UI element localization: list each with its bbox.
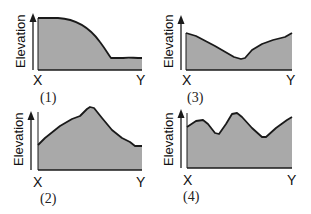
elevation-label-4: Elevation <box>161 113 176 166</box>
panel-number-3: (3) <box>187 90 204 106</box>
panel-2: Elevation X Y (2) <box>11 107 146 207</box>
profile-fill-1 <box>38 18 142 70</box>
panel-4: Elevation X Y (4) <box>161 109 297 205</box>
y-label-4: Y <box>287 172 297 188</box>
panel-number-1: (1) <box>40 90 57 106</box>
elevation-label-1: Elevation <box>13 15 28 68</box>
elevation-profiles-figure: Elevation X Y (1) Elevation X Y (3) Elev… <box>0 0 311 214</box>
y-label-3: Y <box>286 72 296 88</box>
x-label-3: X <box>182 72 192 88</box>
y-label-1: Y <box>136 72 146 88</box>
x-label-1: X <box>33 72 43 88</box>
elevation-label-3: Elevation <box>161 15 176 68</box>
arrow-up-icon <box>28 111 35 120</box>
panel-1: Elevation X Y (1) <box>13 13 146 106</box>
profile-fill-4 <box>187 113 292 168</box>
panel-3: Elevation X Y (3) <box>161 15 296 106</box>
elevation-label-2: Elevation <box>11 113 26 166</box>
panel-number-4: (4) <box>183 189 200 205</box>
x-label-4: X <box>183 172 193 188</box>
arrow-up-icon <box>178 15 185 24</box>
profile-fill-2 <box>38 107 142 170</box>
arrow-up-icon <box>30 13 37 22</box>
y-label-2: Y <box>136 174 146 190</box>
x-label-2: X <box>33 174 43 190</box>
arrow-up-icon <box>178 109 185 118</box>
panel-number-2: (2) <box>40 191 57 207</box>
